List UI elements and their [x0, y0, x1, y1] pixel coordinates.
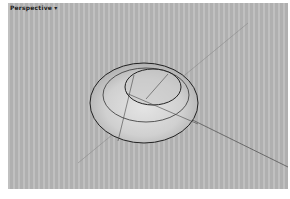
viewport-title[interactable]: Perspective ▾: [10, 4, 58, 11]
dish-top-edge: [125, 69, 181, 105]
perspective-viewport[interactable]: Perspective ▾: [8, 3, 288, 189]
scene-canvas[interactable]: [8, 3, 288, 189]
chevron-down-icon[interactable]: ▾: [54, 4, 57, 11]
